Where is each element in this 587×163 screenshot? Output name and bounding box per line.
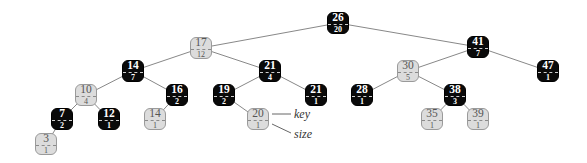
tree-node: 192: [213, 84, 235, 106]
node-size: 1: [314, 97, 318, 106]
tree-node: 281: [351, 84, 373, 106]
node-size: 1: [430, 121, 434, 130]
tree-node: 1712: [190, 37, 212, 59]
node-size: 4: [268, 73, 272, 82]
node-key: 26: [332, 12, 344, 23]
size-annotation-label: size: [294, 127, 312, 142]
node-key: 21: [264, 60, 276, 71]
node-key: 20: [252, 108, 264, 119]
tree-edge: [201, 23, 338, 48]
tree-node: 72: [51, 108, 73, 130]
node-key: 47: [542, 60, 554, 71]
node-size: 2: [175, 97, 179, 106]
node-size: 2: [60, 121, 64, 130]
tree-node: 162: [166, 84, 188, 106]
node-size: 1: [153, 121, 157, 130]
annotation-leader-line: [272, 124, 291, 133]
node-size: 1: [476, 121, 480, 130]
node-key: 14: [127, 60, 139, 71]
node-size: 1: [107, 121, 111, 130]
node-size: 5: [406, 73, 410, 82]
node-key: 41: [472, 36, 484, 47]
tree-node: 147: [122, 60, 144, 82]
node-size: 12: [197, 50, 205, 59]
node-key: 30: [402, 60, 414, 71]
tree-node: 305: [397, 60, 419, 82]
node-key: 19: [218, 84, 230, 95]
node-size: 3: [453, 97, 457, 106]
node-size: 2: [222, 97, 226, 106]
node-size: 1: [44, 146, 48, 155]
tree-node: 214: [259, 60, 281, 82]
node-key: 7: [59, 108, 65, 119]
node-key: 21: [310, 84, 322, 95]
node-size: 20: [334, 25, 342, 34]
tree-node: 211: [305, 84, 327, 106]
node-key: 28: [356, 84, 368, 95]
tree-node: 121: [98, 108, 120, 130]
tree-node: 351: [421, 108, 443, 130]
node-size: 7: [131, 73, 135, 82]
tree-node: 104: [75, 84, 97, 106]
tree-node: 141: [144, 108, 166, 130]
node-size: 1: [256, 121, 260, 130]
node-size: 4: [84, 97, 88, 106]
tree-node: 417: [467, 36, 489, 58]
key-annotation-label: key: [294, 107, 310, 122]
tree-node: 31: [35, 133, 57, 155]
node-key: 3: [43, 133, 49, 144]
node-size: 7: [476, 49, 480, 58]
node-key: 39: [472, 108, 484, 119]
node-key: 14: [149, 108, 161, 119]
tree-node: 201: [247, 108, 269, 130]
node-size: 1: [360, 97, 364, 106]
node-key: 16: [171, 84, 183, 95]
node-key: 35: [426, 108, 438, 119]
node-key: 38: [449, 84, 461, 95]
tree-node: 2620: [327, 12, 349, 34]
red-black-bst-diagram: 2620171241714721430547110416219221128138…: [0, 0, 587, 163]
node-key: 17: [195, 37, 207, 48]
node-size: 1: [546, 73, 550, 82]
tree-node: 471: [537, 60, 559, 82]
node-key: 10: [80, 84, 92, 95]
node-key: 12: [103, 108, 115, 119]
tree-node: 391: [467, 108, 489, 130]
tree-edge: [338, 23, 478, 47]
tree-node: 383: [444, 84, 466, 106]
